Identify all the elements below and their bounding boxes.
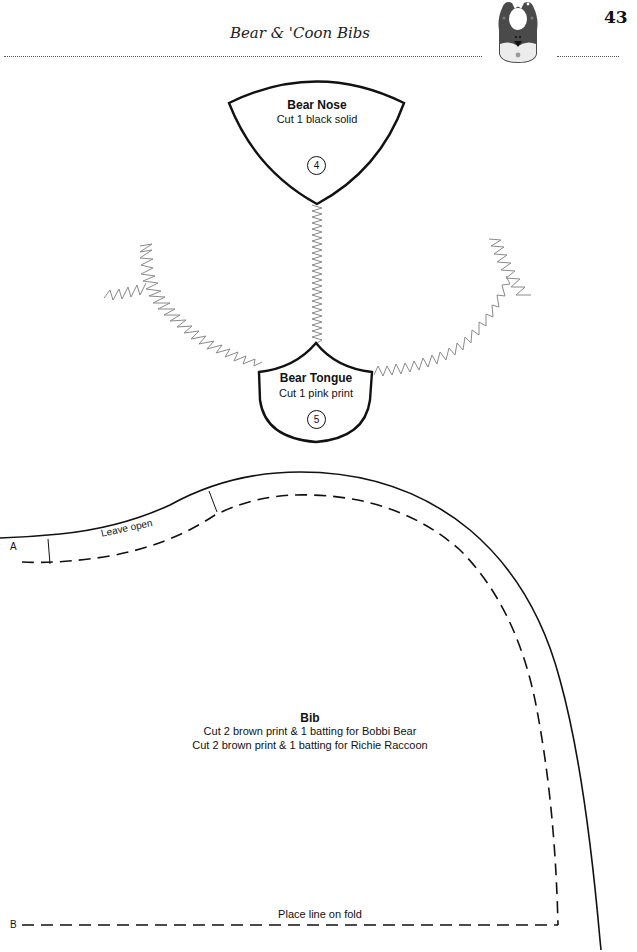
zigzag-arc-right-tail — [489, 239, 531, 295]
tongue-title: Bear Tongue — [261, 371, 371, 385]
leave-open-end-mark — [209, 491, 217, 512]
nose-instruction: Cut 1 black solid — [257, 113, 377, 125]
tongue-instruction: Cut 1 pink print — [261, 387, 371, 399]
bib-instruction-bear: Cut 2 brown print & 1 batting for Bobbi … — [160, 725, 460, 737]
marker-a: A — [10, 541, 17, 552]
leave-open-start-mark — [48, 539, 50, 564]
bib-seam-dashed-line — [22, 495, 558, 925]
marker-b: B — [10, 919, 17, 930]
zigzag-arc-left-tail — [104, 283, 146, 300]
zigzag-arc-left — [140, 244, 262, 366]
nose-piece-number: 4 — [307, 156, 326, 175]
bib-instruction-raccoon: Cut 2 brown print & 1 batting for Richie… — [160, 739, 460, 751]
fold-label: Place line on fold — [230, 908, 410, 920]
pattern-lines — [0, 0, 637, 952]
bib-title: Bib — [230, 711, 390, 725]
zigzag-connector — [312, 205, 322, 343]
tongue-piece-number: 5 — [307, 410, 326, 429]
zigzag-arc-right — [374, 276, 510, 376]
nose-title: Bear Nose — [267, 98, 367, 112]
